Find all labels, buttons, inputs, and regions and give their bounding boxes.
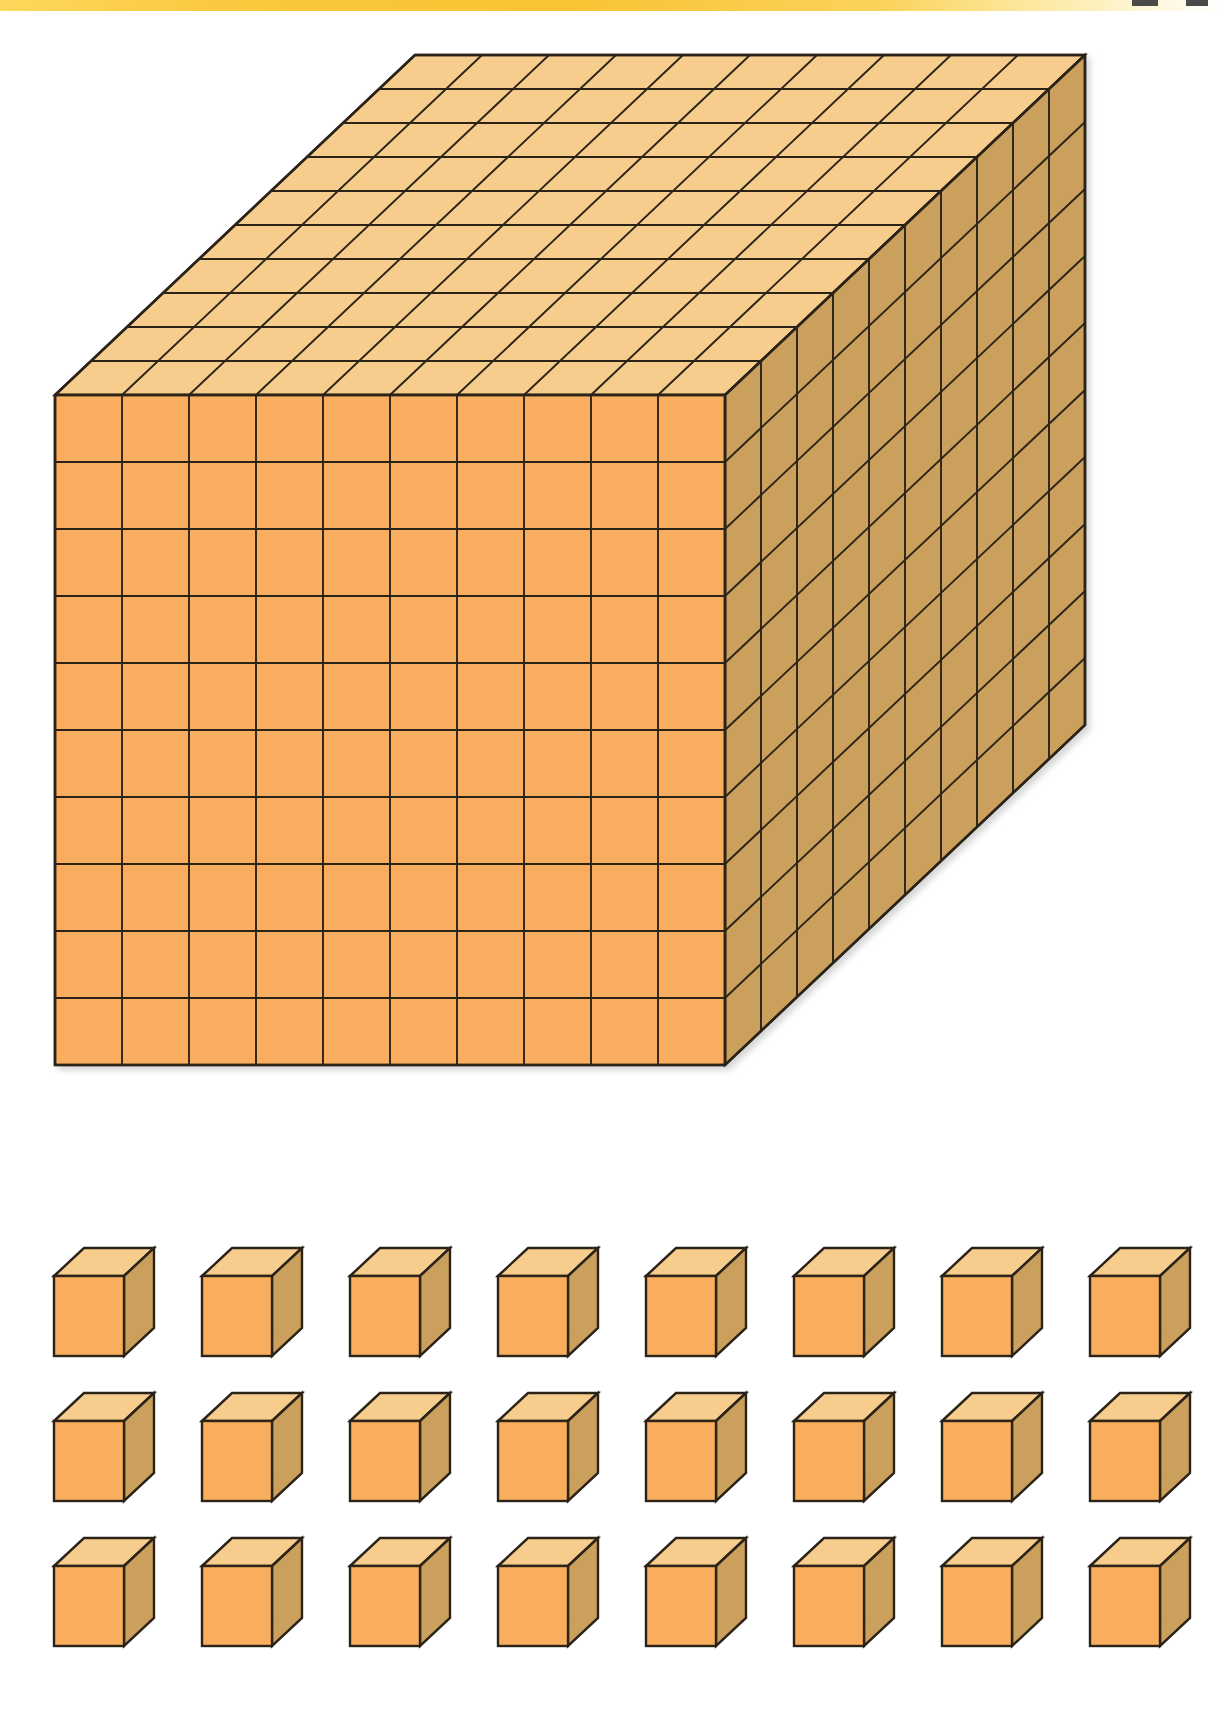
unit-cube [196,1385,308,1510]
unit-cube-row [0,1530,1222,1690]
unit-cube-row [0,1385,1222,1545]
unit-cube [936,1240,1048,1365]
unit-cube [344,1530,456,1655]
unit-cube [492,1240,604,1365]
unit-cube [48,1530,160,1655]
unit-cube [936,1385,1048,1510]
unit-cube [1084,1530,1196,1655]
unit-cube [1084,1385,1196,1510]
unit-cube [48,1240,160,1365]
crop-mark-left [1132,0,1158,6]
unit-cube [196,1530,308,1655]
crop-mark-right [1186,0,1208,6]
unit-cube [344,1240,456,1365]
decorative-gradient-band [0,0,1222,11]
unit-cube [788,1530,900,1655]
unit-cube [936,1530,1048,1655]
unit-cubes-group [0,1180,1222,1710]
unit-cube [344,1385,456,1510]
unit-cube-row [0,1240,1222,1400]
unit-cube [788,1385,900,1510]
unit-cube [48,1385,160,1510]
unit-cube [640,1385,752,1510]
page-root [0,0,1222,1710]
unit-cube [1084,1240,1196,1365]
crop-marks [1132,0,1212,9]
unit-cube [640,1530,752,1655]
unit-cube [492,1385,604,1510]
thousand-cube [0,22,1130,1132]
unit-cube [492,1530,604,1655]
unit-cube [640,1240,752,1365]
unit-cube [788,1240,900,1365]
unit-cube [196,1240,308,1365]
